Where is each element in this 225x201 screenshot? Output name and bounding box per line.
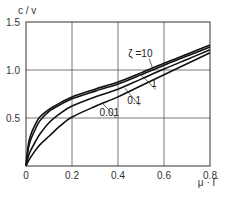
grid-lines: [26, 22, 210, 166]
y-tick-labels: 0.51.01.5: [6, 17, 20, 124]
y-axis-label: c / v: [18, 5, 36, 16]
y-tick-label: 1.0: [6, 65, 20, 76]
series-labels: ζ =1010.10.01: [100, 48, 158, 119]
y-tick-label: 1.5: [6, 17, 20, 28]
x-axis-label: μ · Γ: [198, 177, 219, 188]
x-tick-labels: 00.20.40.60.8: [23, 170, 217, 181]
leader-line: [149, 59, 152, 69]
x-tick-label: 0.4: [111, 170, 125, 181]
series-label: 0.01: [100, 107, 120, 118]
chart: ζ =1010.10.01 00.20.40.60.8 0.51.01.5 c …: [0, 0, 225, 201]
series-label: 0.1: [127, 95, 141, 106]
x-tick-label: 0.6: [157, 170, 171, 181]
x-tick-label: 0: [23, 170, 29, 181]
x-tick-label: 0.2: [65, 170, 79, 181]
y-tick-label: 0.5: [6, 113, 20, 124]
series-label: ζ =10: [128, 48, 153, 60]
